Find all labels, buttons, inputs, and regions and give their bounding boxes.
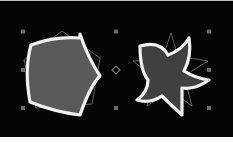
handle-bottom-left[interactable] xyxy=(21,106,25,110)
handle-top-left[interactable] xyxy=(21,30,25,34)
distorted-pentagon-shape[interactable] xyxy=(27,34,100,115)
handle-bottom-center[interactable] xyxy=(114,106,118,110)
handle-top-right[interactable] xyxy=(207,30,211,34)
handle-middle-right[interactable] xyxy=(207,68,211,72)
center-diamond-icon[interactable] xyxy=(112,66,120,74)
handle-bottom-right[interactable] xyxy=(207,106,211,110)
handle-top-center[interactable] xyxy=(114,30,118,34)
handle-middle-left[interactable] xyxy=(21,68,25,72)
drawing-canvas[interactable] xyxy=(0,1,233,137)
canvas-svg xyxy=(0,1,233,137)
window-bottom-strip xyxy=(0,137,233,142)
